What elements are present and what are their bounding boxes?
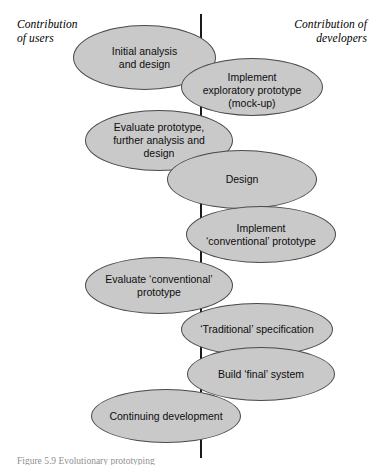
evolutionary-prototyping-diagram: Contribution of users Contribution of de…	[0, 0, 378, 465]
process-node-build-final-system: Build ‘final’ system	[187, 347, 335, 401]
process-node-evaluate-conventional-prototype: Evaluate ‘conventional’ prototype	[85, 257, 233, 314]
process-node-implement-conventional-prototype: Implement ‘conventional’ prototype	[186, 206, 336, 263]
process-node-label: Evaluate prototype, further analysis and…	[105, 121, 213, 160]
process-node-label: Continuing development	[101, 410, 230, 423]
process-node-implement-exploratory-prototype: Implement exploratory prototype (mock-up…	[181, 58, 323, 116]
header-contribution-of-users: Contribution of users	[17, 18, 78, 45]
process-node-label: Build ‘final’ system	[210, 368, 312, 381]
process-node-label: Initial analysis and design	[104, 45, 185, 71]
process-node-label: Implement ‘conventional’ prototype	[198, 222, 324, 248]
figure-caption: Figure 5.9 Evolutionary prototyping	[17, 456, 369, 465]
process-node-label: Implement exploratory prototype (mock-up…	[195, 65, 310, 110]
process-node-label: Evaluate ‘conventional’ prototype	[97, 273, 220, 299]
process-node-continuing-development: Continuing development	[91, 389, 241, 443]
process-node-design: Design	[167, 150, 317, 209]
header-contribution-of-developers: Contribution of developers	[294, 18, 367, 45]
process-node-label: ‘Traditional’ specification	[192, 323, 322, 336]
process-node-label: Design	[218, 173, 267, 186]
